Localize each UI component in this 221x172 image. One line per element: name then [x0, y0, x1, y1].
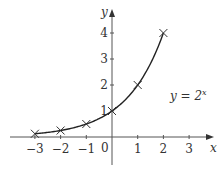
y-axis-label: y — [100, 5, 108, 19]
cross-marker-icon — [82, 120, 90, 128]
x-tick-label: −1 — [77, 142, 95, 156]
exponential-graph: x y −3−2−11231234 0 y = 2x — [0, 0, 221, 172]
x-axis-arrow-icon — [206, 134, 214, 140]
y-tick-label: 2 — [100, 78, 108, 92]
y-tick-label: 3 — [100, 52, 108, 66]
y-axis-arrow-icon — [109, 9, 115, 17]
x-tick-label: −3 — [26, 142, 44, 156]
origin-label: 0 — [101, 141, 109, 155]
markers — [31, 29, 168, 138]
curve — [35, 33, 164, 134]
x-tick-label: 3 — [185, 142, 193, 156]
x-tick-label: 1 — [134, 142, 142, 156]
x-axis-label: x — [210, 141, 217, 155]
cross-marker-icon — [134, 81, 142, 89]
x-tick-label: −2 — [52, 142, 70, 156]
y-tick-label: 4 — [100, 26, 108, 40]
x-tick-label: 2 — [160, 142, 168, 156]
equation-label: y = 2x — [169, 88, 207, 103]
cross-marker-icon — [159, 29, 167, 37]
